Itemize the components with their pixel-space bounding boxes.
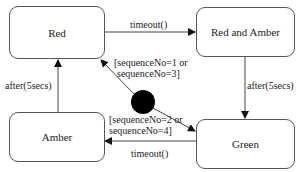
transition-label-amber-to-red: after(5secs) <box>5 80 52 91</box>
transition-label-green-to-amber: timeout() <box>131 148 168 159</box>
state-red-and-amber: Red and Amber <box>196 7 295 57</box>
transition-label-red-to-red-amber: timeout() <box>130 19 167 30</box>
state-red: Red <box>9 6 105 59</box>
state-green: Green <box>196 119 295 169</box>
state-amber: Amber <box>9 112 105 162</box>
state-red-label: Red <box>48 27 66 39</box>
guard-label-to-red-line2: sequenceNo=3] <box>117 68 180 79</box>
guard-label-to-red-line1: [sequenceNo=1 or <box>114 57 188 68</box>
transition-label-red-amber-to-green: after(5secs) <box>247 80 294 91</box>
state-amber-label: Amber <box>42 131 73 143</box>
guard-label-to-green-line2: sequenceNo=4] <box>109 125 172 136</box>
state-green-label: Green <box>232 138 259 150</box>
state-red-and-amber-label: Red and Amber <box>211 26 280 38</box>
initial-state-dot <box>131 90 155 114</box>
guard-label-to-green-line1: [sequenceNo=2 or <box>109 114 183 125</box>
